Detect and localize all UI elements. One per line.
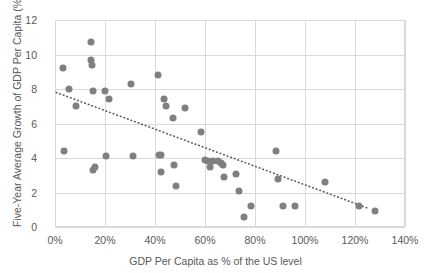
x-axis-tick-label: 140% bbox=[392, 235, 419, 246]
data-point bbox=[198, 129, 205, 136]
data-point bbox=[182, 104, 189, 111]
data-point bbox=[60, 148, 67, 155]
data-point bbox=[105, 96, 112, 103]
data-point bbox=[220, 173, 227, 180]
x-axis-tick-label: 80% bbox=[244, 235, 265, 246]
gridline-vertical bbox=[55, 20, 56, 227]
data-point bbox=[235, 187, 242, 194]
data-point bbox=[163, 103, 170, 110]
gridline-vertical bbox=[405, 20, 406, 227]
data-point bbox=[233, 170, 240, 177]
x-axis-tick-label: 120% bbox=[342, 235, 369, 246]
data-point bbox=[240, 213, 247, 220]
data-point bbox=[274, 175, 281, 182]
data-point bbox=[279, 203, 286, 210]
x-axis-tick-label: 60% bbox=[194, 235, 215, 246]
data-point bbox=[128, 80, 135, 87]
data-point bbox=[92, 163, 99, 170]
gridline-horizontal bbox=[55, 55, 405, 56]
gridline-vertical bbox=[355, 20, 356, 227]
gridline-vertical bbox=[255, 20, 256, 227]
data-point bbox=[170, 161, 177, 168]
data-point bbox=[65, 86, 72, 93]
data-point bbox=[292, 203, 299, 210]
data-point bbox=[154, 72, 161, 79]
gridline-horizontal bbox=[55, 124, 405, 125]
plot-area bbox=[55, 20, 405, 227]
data-point bbox=[322, 179, 329, 186]
gridline-vertical bbox=[305, 20, 306, 227]
gridline-horizontal bbox=[55, 193, 405, 194]
data-point bbox=[59, 65, 66, 72]
data-point bbox=[102, 87, 109, 94]
x-axis-tick-label: 40% bbox=[144, 235, 165, 246]
data-point bbox=[158, 151, 165, 158]
data-point bbox=[103, 153, 110, 160]
data-point bbox=[248, 203, 255, 210]
gridline-vertical bbox=[205, 20, 206, 227]
gridline-vertical bbox=[155, 20, 156, 227]
y-axis-title: Five-Year Average Growth of GDP Per Capi… bbox=[11, 20, 23, 227]
data-point bbox=[88, 39, 95, 46]
data-point bbox=[173, 182, 180, 189]
x-axis-tick-label: 100% bbox=[292, 235, 319, 246]
data-point bbox=[219, 161, 226, 168]
gridline-horizontal bbox=[55, 20, 405, 21]
gridline-horizontal bbox=[55, 227, 405, 228]
data-point bbox=[273, 148, 280, 155]
data-point bbox=[129, 153, 136, 160]
gridline-vertical bbox=[105, 20, 106, 227]
data-point bbox=[169, 115, 176, 122]
data-point bbox=[372, 208, 379, 215]
x-axis-tick-label: 0% bbox=[47, 235, 62, 246]
data-point bbox=[73, 103, 80, 110]
x-axis-title: GDP Per Capita as % of the US level bbox=[0, 255, 431, 267]
x-axis-tick-label: 20% bbox=[94, 235, 115, 246]
data-point bbox=[158, 168, 165, 175]
data-point bbox=[89, 61, 96, 68]
data-point bbox=[355, 203, 362, 210]
data-point bbox=[89, 87, 96, 94]
scatter-chart: 024681012 0%20%40%60%80%100%120%140% GDP… bbox=[0, 0, 431, 273]
